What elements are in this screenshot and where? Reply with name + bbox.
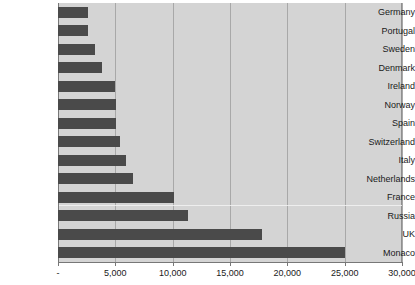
bar-switzerland: [58, 136, 120, 147]
gridline-25000: [345, 3, 346, 262]
bar-chart: GermanyPortugalSwedenDenmarkIrelandNorwa…: [0, 0, 415, 285]
category-label-italy: Italy: [359, 155, 415, 165]
category-label-russia: Russia: [359, 211, 415, 221]
bar-italy: [58, 155, 126, 166]
bar-norway: [58, 99, 116, 110]
category-label-monaco: Monaco: [359, 248, 415, 258]
gridline-10000: [173, 3, 174, 262]
category-label-switzerland: Switzerland: [359, 137, 415, 147]
y-axis-line: [58, 3, 59, 263]
x-tick-label-20000: 20,000: [274, 268, 302, 278]
tick-0: [58, 262, 59, 266]
x-tick-label-0: -: [57, 268, 60, 278]
x-tick-label-25000: 25,000: [331, 268, 359, 278]
x-tick-label-10000: 10,000: [159, 268, 187, 278]
plot-area: [58, 3, 402, 262]
gridline-15000: [230, 3, 231, 262]
x-tick-label-30000: 30,000: [388, 268, 415, 278]
tick-25000: [345, 262, 346, 266]
gridline-30000: [402, 3, 403, 262]
category-label-ireland: Ireland: [359, 81, 415, 91]
category-label-uk: UK: [359, 229, 415, 239]
category-label-portugal: Portugal: [359, 26, 415, 36]
tick-20000: [287, 262, 288, 266]
bar-spain: [58, 118, 116, 129]
bar-monaco: [58, 247, 345, 258]
category-label-spain: Spain: [359, 118, 415, 128]
tick-15000: [230, 262, 231, 266]
tick-10000: [173, 262, 174, 266]
bar-uk: [58, 229, 262, 240]
tick-30000: [402, 262, 403, 266]
bar-russia: [58, 210, 188, 221]
tick-5000: [115, 262, 116, 266]
bar-portugal: [58, 25, 88, 36]
bar-netherlands: [58, 173, 133, 184]
bar-denmark: [58, 62, 102, 73]
category-label-norway: Norway: [359, 100, 415, 110]
x-tick-label-15000: 15,000: [216, 268, 244, 278]
category-label-denmark: Denmark: [359, 63, 415, 73]
category-label-sweden: Sweden: [359, 44, 415, 54]
gridline-20000: [287, 3, 288, 262]
bar-ireland: [58, 81, 115, 92]
bar-sweden: [58, 44, 95, 55]
category-label-germany: Germany: [359, 7, 415, 17]
category-label-netherlands: Netherlands: [359, 174, 415, 184]
category-label-france: France: [359, 192, 415, 202]
bar-france: [58, 192, 174, 203]
x-tick-label-5000: 5,000: [104, 268, 127, 278]
bar-germany: [58, 7, 88, 18]
scanline-artifact: [58, 205, 402, 206]
gridline-5000: [115, 3, 116, 262]
